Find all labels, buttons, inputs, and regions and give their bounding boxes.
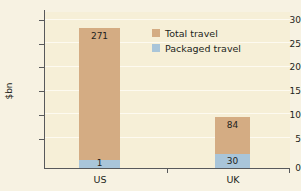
bar-us-packaged-value: 1 — [79, 159, 120, 168]
y-tick-30 — [39, 20, 44, 21]
legend-item-total-travel[interactable]: Total travel — [152, 26, 241, 40]
y-tick-label-20: 20 — [267, 62, 301, 72]
y-tick-15 — [39, 91, 44, 92]
x-tick-end — [289, 169, 290, 173]
x-tick-mid — [167, 169, 168, 173]
y-tick-label-15: 15 — [267, 86, 301, 96]
y-tick-25 — [39, 44, 44, 45]
y-tick-10 — [39, 115, 44, 116]
legend-swatch-icon-packaged — [152, 44, 160, 52]
y-tick-5 — [39, 139, 44, 140]
bar-uk-packaged-value: 30 — [215, 157, 250, 166]
y-tick-20 — [39, 67, 44, 68]
y-tick-label-10: 10 — [267, 110, 301, 120]
plot-area: 271 1 84 30 Total travel Packaged travel — [45, 12, 290, 168]
y-tick-label-0: 0 — [267, 163, 301, 173]
x-tick-label-uk: UK — [203, 174, 263, 185]
bar-us-total-value: 271 — [79, 32, 120, 41]
y-axis-title: $bn — [4, 69, 14, 113]
legend-label-total: Total travel — [165, 28, 218, 39]
legend-swatch-icon-total — [152, 29, 160, 37]
bar-us-packaged[interactable]: 1 — [79, 160, 120, 168]
x-tick-label-us: US — [70, 174, 130, 185]
y-tick-label-30: 30 — [267, 15, 301, 25]
legend-item-packaged-travel[interactable]: Packaged travel — [152, 41, 241, 55]
y-tick-label-5: 5 — [267, 134, 301, 144]
y-tick-label-25: 25 — [267, 39, 301, 49]
bar-chart: $bn 271 1 84 30 Total travel — [0, 0, 301, 191]
y-axis-line — [44, 10, 45, 169]
gridline-30 — [45, 19, 290, 20]
bar-uk-packaged[interactable]: 30 — [215, 154, 250, 168]
bar-us-total[interactable]: 271 — [79, 28, 120, 168]
bar-uk-total-value: 84 — [215, 121, 250, 130]
legend-label-packaged: Packaged travel — [165, 43, 241, 54]
legend: Total travel Packaged travel — [152, 26, 241, 56]
